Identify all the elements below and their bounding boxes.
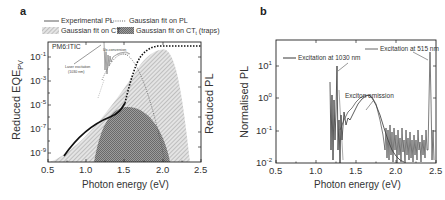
xtick-b-4: 2.5 (429, 165, 442, 176)
experimental-pl-curve (104, 42, 130, 74)
legend-gaussian-pl: Gaussian fit on PL (129, 16, 188, 25)
xtick-a-3: 2.0 (156, 164, 169, 175)
arrow-1030-peak (338, 63, 348, 71)
upconversion-annotation: Up-conversion (103, 48, 126, 52)
panel-b-plot-area (330, 52, 434, 163)
ytick-b-m1: 10-1 (256, 125, 272, 136)
ytick-a-5: 10-5 (30, 99, 46, 110)
ytick-a-1: 10-1 (30, 51, 46, 62)
legend-experimental-pl: Experimental PL (61, 16, 114, 25)
exciton-annotation: Exciton emission (345, 92, 394, 99)
xtick-a-2: 1.5 (117, 164, 130, 175)
ylabel-b: Normalised PL (238, 66, 250, 138)
xtick-b-3: 2.0 (389, 165, 402, 176)
legend-gaussian-ct-traps: Gaussian fit on CTt (traps) (136, 26, 220, 35)
panel-a-plot-area (50, 42, 201, 162)
legend-gaussian-ct: Gaussian fit on CT (61, 26, 121, 35)
laser-annotation: Laser excitation (65, 65, 90, 69)
ylabel-a-left: Reduced EQEPV (10, 60, 22, 140)
legend-light-hatch-icon (42, 27, 59, 34)
xtick-a-4: 2.5 (194, 164, 207, 175)
ytick-b-1: 101 (258, 60, 272, 71)
legend-515nm: Excitation at 515 nm (380, 45, 439, 52)
ytick-b-0: 100 (258, 92, 272, 103)
xtick-b-2: 1.5 (349, 165, 362, 176)
xlabel-a: Photon energy (eV) (82, 179, 169, 190)
ytick-a-7: 10-7 (30, 123, 46, 134)
pl-515nm-curve (340, 52, 434, 163)
xtick-a-1: 1.0 (79, 164, 92, 175)
ylabel-a-right: Reduced PL (203, 73, 215, 134)
arrow-exciton (366, 101, 373, 110)
xtick-b-1: 1.0 (309, 165, 322, 176)
xtick-b-0: 0.5 (269, 165, 282, 176)
ytick-a-3: 10-3 (30, 75, 46, 86)
xtick-a-0: 0.5 (41, 164, 54, 175)
panel-b-letter: b (260, 5, 267, 17)
sample-label: PM6:ITIC (52, 43, 81, 50)
xlabel-b: Photon energy (eV) (314, 179, 401, 190)
legend-1030nm: Excitation at 1030 nm (298, 54, 361, 61)
laser-wavelength: (1030 nm) (68, 70, 84, 74)
arrow-515-peak (413, 52, 428, 60)
pl-1030nm-curve (330, 66, 404, 163)
ytick-a-9: 10-9 (30, 147, 46, 158)
